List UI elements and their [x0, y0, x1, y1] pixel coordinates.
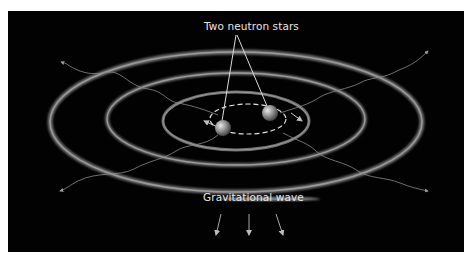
orbit-arrow-right: [291, 113, 302, 121]
wave-line-top-right: [280, 51, 428, 113]
wave-propagation-arrows: [216, 214, 283, 235]
neutron-star-2: [262, 105, 278, 121]
label-pointer-lines: [222, 35, 267, 121]
diagram-panel: Two neutron stars Gravitational wave: [8, 11, 464, 252]
wave-arrow-1: [216, 214, 221, 235]
wave-arrow-3: [276, 214, 283, 235]
gravitational-wave-diagram: [8, 11, 464, 252]
inner-ring: [163, 92, 309, 150]
neutron-stars-label: Two neutron stars: [204, 20, 299, 32]
wave-line-bottom-right: [283, 133, 428, 191]
neutron-star-1: [215, 120, 231, 136]
gravitational-wave-label: Gravitational wave: [203, 191, 304, 203]
